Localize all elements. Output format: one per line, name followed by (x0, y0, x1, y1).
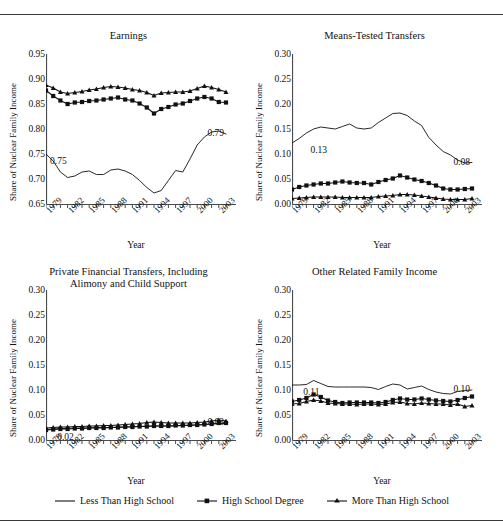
data-point-square (348, 180, 352, 184)
figure-legend: Less Than High SchoolHigh School DegreeM… (0, 495, 503, 506)
data-point-square (412, 397, 416, 401)
data-point-square (102, 97, 106, 101)
data-point-square (292, 187, 294, 191)
data-point-square (463, 396, 467, 400)
x-tick-labels: 197919821985198819911994199720002003 (292, 204, 472, 240)
plot-area-svg (292, 54, 486, 218)
series-line-none (46, 131, 226, 193)
data-point-square (94, 98, 98, 102)
plot-other-related-family-income: Share of Nuclear Family Income 0.000.050… (252, 290, 497, 495)
data-point-square (297, 185, 301, 189)
data-point-triangle (470, 403, 475, 408)
data-point-square (355, 181, 359, 185)
legend-label: More Than High School (352, 495, 449, 506)
value-annotation: 0.79 (207, 128, 224, 138)
data-point-square (441, 186, 445, 190)
legend-item-1: High School Degree (196, 495, 304, 506)
line-swatch-icon (54, 496, 76, 506)
data-point-square (217, 100, 221, 104)
y-tick-label: 0.30 (274, 285, 291, 295)
y-tick-label: 0.25 (28, 310, 45, 320)
panel-earnings: Earnings Share of Nuclear Family Income … (6, 30, 251, 259)
data-point-square (420, 179, 424, 183)
x-tick-labels: 197919821985198819911994199720002003 (46, 440, 226, 476)
data-point-square (384, 178, 388, 182)
figure-panel-grid: Earnings Share of Nuclear Family Income … (0, 16, 503, 494)
data-point-square (304, 183, 308, 187)
panel-means-tested-transfers: Means-Tested Transfers Share of Nuclear … (252, 30, 497, 259)
data-point-square (420, 396, 424, 400)
y-tick-label: 0.05 (28, 410, 45, 420)
data-point-square (73, 100, 77, 104)
plot-means-tested-transfers: Share of Nuclear Family Income 0.000.050… (252, 54, 497, 259)
y-tick-label: 0.15 (28, 360, 45, 370)
bottom-rule (0, 520, 503, 521)
value-annotation: 0.02 (57, 432, 74, 442)
y-tick-label: 0.00 (28, 435, 45, 445)
data-point-square (448, 187, 452, 191)
data-point-square (80, 100, 84, 104)
data-point-square (202, 95, 206, 99)
data-point-square (109, 96, 113, 100)
data-point-square (159, 424, 163, 428)
data-point-square (174, 102, 178, 106)
chart-svg (292, 290, 486, 450)
data-point-square (427, 181, 431, 185)
data-point-square (333, 180, 337, 184)
y-tick-label: 0.05 (274, 174, 291, 184)
panel-other-related-family-income: Other Related Family Income Share of Nuc… (252, 266, 497, 495)
data-point-square (369, 182, 373, 186)
data-point-triangle (311, 397, 316, 402)
data-point-square (152, 111, 156, 115)
plot-earnings: Share of Nuclear Family Income 0.650.700… (6, 54, 251, 259)
y-tick-label: 0.00 (274, 435, 291, 445)
y-tick-labels: 0.000.050.100.150.200.250.30 (265, 54, 291, 206)
x-axis-label: Year (292, 240, 472, 250)
line-triangle-swatch-icon (326, 496, 348, 506)
y-tick-label: 0.85 (28, 99, 45, 109)
data-point-square (138, 101, 142, 105)
data-point-square (470, 394, 474, 398)
data-point-square (66, 102, 70, 106)
legend-label: Less Than High School (80, 495, 174, 506)
y-tick-label: 0.15 (274, 360, 291, 370)
legend-item-0: Less Than High School (54, 495, 174, 506)
chart-svg (292, 54, 486, 214)
plot-private-financial-transfers: Share of Nuclear Family Income 0.000.050… (6, 290, 251, 495)
series-line-none (292, 113, 472, 163)
data-point-square (376, 180, 380, 184)
y-tick-label: 0.20 (274, 99, 291, 109)
y-tick-label: 0.10 (28, 385, 45, 395)
data-point-square (312, 182, 316, 186)
x-tick-labels: 197919821985198819911994199720002003 (292, 440, 472, 476)
y-tick-labels: 0.000.050.100.150.200.250.30 (19, 290, 45, 442)
data-point-square (159, 107, 163, 111)
top-rule (0, 14, 503, 15)
panel-title-line-0: Private Financial Transfers, Including (6, 266, 251, 278)
plot-area-svg (292, 290, 486, 454)
data-point-square (123, 97, 127, 101)
y-tick-label: 0.10 (274, 149, 291, 159)
y-tick-label: 0.10 (274, 385, 291, 395)
data-point-square (362, 181, 366, 185)
data-point-square (145, 424, 149, 428)
y-tick-label: 0.80 (28, 124, 45, 134)
plot-area-svg (46, 290, 240, 454)
data-point-square (405, 175, 409, 179)
y-tick-labels: 0.650.700.750.800.850.900.95 (19, 54, 45, 206)
x-tick-labels: 197919821985198819911994199720002003 (46, 204, 226, 240)
value-annotation: 0.10 (453, 384, 470, 394)
data-point-square (463, 187, 467, 191)
y-tick-label: 0.15 (274, 124, 291, 134)
data-point-square (46, 88, 48, 92)
data-point-square (326, 181, 330, 185)
x-axis-label: Year (46, 240, 226, 250)
value-annotation: 0.13 (310, 145, 327, 155)
y-tick-label: 0.70 (28, 174, 45, 184)
clipped-header-text (0, 0, 503, 5)
data-point-square (319, 181, 323, 185)
value-annotation: 0.03 (207, 417, 224, 427)
data-point-triangle (202, 83, 207, 88)
y-tick-labels: 0.000.050.100.150.200.250.30 (265, 290, 291, 442)
y-tick-label: 0.90 (28, 74, 45, 84)
